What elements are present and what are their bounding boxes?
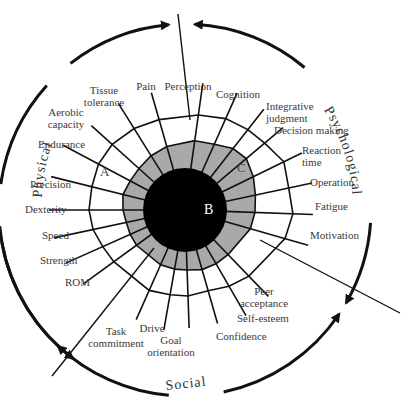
spoke-label: Integrative judgment bbox=[266, 100, 314, 124]
spoke-label: Self-esteem bbox=[237, 312, 289, 324]
spoke-label: Perception bbox=[164, 80, 211, 92]
spoke-label: Operation bbox=[310, 176, 354, 188]
spoke-label: Peer acceptance bbox=[240, 285, 288, 309]
spoke-label: Aerobic capacity bbox=[48, 106, 85, 130]
spoke-label: Fatigue bbox=[315, 200, 348, 212]
spoke-label: Endurance bbox=[38, 138, 85, 150]
region-label-c: C bbox=[237, 160, 246, 176]
domain-label-social: Social bbox=[165, 374, 207, 393]
divider-line bbox=[52, 248, 154, 376]
spoke-label: Precision bbox=[30, 178, 71, 190]
spoke-label: Tissue tolerance bbox=[84, 84, 124, 108]
physical-arc-upper bbox=[70, 25, 168, 64]
spoke-label: ROM bbox=[65, 276, 90, 288]
spoke-label: Confidence bbox=[216, 330, 267, 342]
physical-arc-bottom bbox=[0, 226, 63, 350]
spoke-label: Dexterity bbox=[25, 203, 67, 215]
region-label-a: A bbox=[100, 164, 109, 180]
psychological-arc-upper bbox=[195, 24, 305, 67]
spoke-label: Speed bbox=[42, 229, 69, 241]
domain-capability-diagram: Physical Psychological Social Perception… bbox=[0, 0, 413, 406]
spoke-label: Reaction time bbox=[302, 144, 341, 168]
spoke-label: Goal orientation bbox=[147, 334, 195, 358]
spoke-label: Task commitment bbox=[88, 325, 144, 349]
spoke-label: Pain bbox=[136, 80, 156, 92]
spoke-label: Strength bbox=[40, 254, 77, 266]
spoke-label: Motivation bbox=[310, 229, 359, 241]
region-label-b: B bbox=[204, 202, 213, 218]
core-disk bbox=[143, 168, 227, 252]
spoke-label: Cognition bbox=[216, 88, 260, 100]
spoke-label: Decision making bbox=[274, 124, 349, 136]
social-arc-right bbox=[224, 314, 340, 392]
divider-line bbox=[178, 14, 190, 120]
